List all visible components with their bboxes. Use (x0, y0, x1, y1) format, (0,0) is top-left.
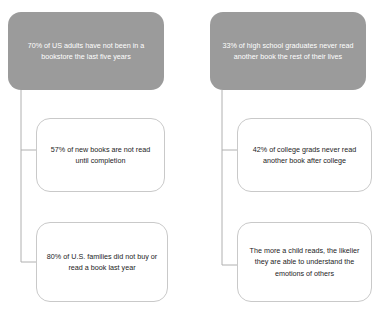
root-node-right: 33% of high school graduates never read … (210, 12, 366, 90)
root-node-left: 70% of US adults have not been in a book… (8, 12, 164, 90)
leaf-node-right-1: 42% of college grads never read another … (237, 118, 372, 192)
leaf-node-left-1-label: 57% of new books are not read until comp… (46, 144, 155, 166)
root-node-right-label: 33% of high school graduates never read … (222, 40, 354, 62)
leaf-node-right-2-label: The more a child reads, the likelier the… (247, 245, 362, 278)
diagram-canvas: 70% of US adults have not been in a book… (0, 0, 376, 309)
leaf-node-left-1: 57% of new books are not read until comp… (36, 118, 165, 192)
root-node-left-label: 70% of US adults have not been in a book… (20, 40, 152, 62)
leaf-node-left-2: 80% of U.S. families did not buy or read… (36, 222, 168, 302)
leaf-node-right-1-label: 42% of college grads never read another … (247, 144, 362, 166)
leaf-node-left-2-label: 80% of U.S. families did not buy or read… (46, 251, 158, 273)
leaf-node-right-2: The more a child reads, the likelier the… (237, 222, 372, 302)
